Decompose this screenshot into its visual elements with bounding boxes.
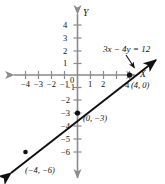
y-tick-label-4: 4 bbox=[63, 21, 67, 30]
x-tick-label-neg3: −3 bbox=[34, 80, 43, 89]
equation-pointer-arrow bbox=[126, 55, 135, 68]
x-axis bbox=[14, 71, 135, 79]
y-tick-label-neg1: −1 bbox=[66, 83, 75, 92]
coordinate-plane-svg bbox=[0, 0, 165, 184]
y-tick-label-neg2: −2 bbox=[61, 96, 70, 105]
point-label-lower-left: (−4, −6) bbox=[25, 166, 55, 175]
x-axis-label: X bbox=[140, 70, 146, 80]
y-axis-label: Y bbox=[83, 9, 88, 19]
y-tick-label-neg5: −5 bbox=[61, 135, 70, 144]
x-tick-label-4: 4 bbox=[125, 81, 129, 90]
equation-label: 3x − 4y = 12 bbox=[103, 45, 150, 54]
point-neg4-neg6 bbox=[23, 150, 28, 155]
y-tick-label-1: 1 bbox=[63, 59, 67, 68]
y-tick-label-neg4: −4 bbox=[61, 122, 70, 131]
y-tick-label-neg3: −3 bbox=[61, 109, 70, 118]
x-tick-label-neg2: −2 bbox=[47, 80, 56, 89]
point-label-x-intercept: (4, 0) bbox=[131, 81, 149, 90]
x-tick-label-2: 2 bbox=[101, 80, 105, 89]
point-label-y-intercept: (0, −3) bbox=[83, 114, 107, 123]
y-tick-label-2: 2 bbox=[63, 47, 67, 56]
y-axis bbox=[74, 14, 82, 178]
x-tick-label-neg4: −4 bbox=[21, 80, 30, 89]
point-4-0 bbox=[127, 72, 132, 77]
point-0-neg3 bbox=[75, 110, 80, 115]
x-tick-label-1: 1 bbox=[88, 80, 92, 89]
y-tick-label-neg6: −6 bbox=[61, 148, 70, 157]
y-tick-label-3: 3 bbox=[63, 34, 67, 43]
graph-figure: −4 −3 −2 −1 0 1 2 4 4 3 2 1 −1 −2 −3 −4 … bbox=[0, 0, 165, 184]
